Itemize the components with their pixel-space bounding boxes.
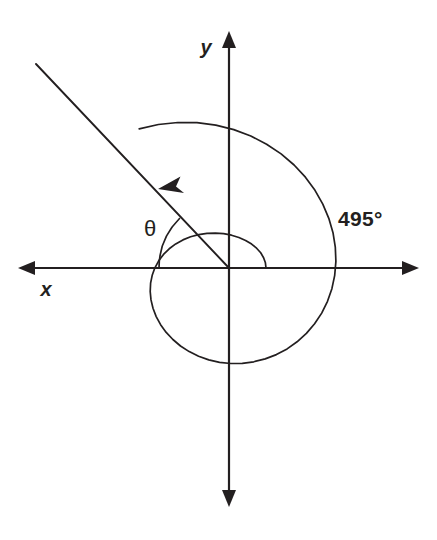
theta-label: θ [144,216,156,241]
angle-spiral [139,123,336,364]
x-axis-left-arrowhead [18,261,35,275]
coordinate-plane-svg: y x θ 495° [0,0,437,540]
terminal-side-ray [36,64,229,268]
x-axis-label: x [39,278,52,300]
angle-diagram-figure: y x θ 495° [0,0,437,540]
x-axis [18,261,419,275]
y-axis-up-arrowhead [222,31,236,48]
spiral-path [139,123,336,364]
spiral-arrowhead [158,177,184,194]
angle-measure-label: 495° [338,207,383,230]
x-axis-right-arrowhead [402,261,419,275]
y-axis-label: y [199,36,212,58]
y-axis-down-arrowhead [222,490,236,507]
